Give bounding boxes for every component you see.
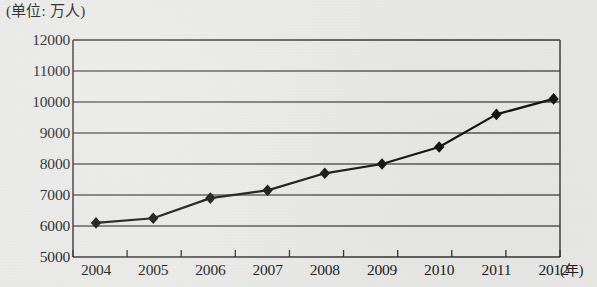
x-tick-label: 2006: [195, 262, 225, 278]
x-tick-label: 2005: [138, 262, 168, 278]
x-tick-label: 2011: [482, 262, 512, 278]
x-tick-label: 2004: [81, 262, 111, 278]
x-tick-label: 2007: [252, 262, 282, 278]
x-tick-label: 2009: [367, 262, 397, 278]
x-tick-label: 2010: [424, 262, 454, 278]
x-axis-unit-label: (年): [560, 263, 583, 279]
x-axis-tick-labels: 200420052006200720082009201020112012: [0, 0, 597, 287]
x-tick-label: 2008: [310, 262, 340, 278]
line-chart: (单位: 万人) 1200011000100009000800070006000…: [0, 0, 597, 287]
